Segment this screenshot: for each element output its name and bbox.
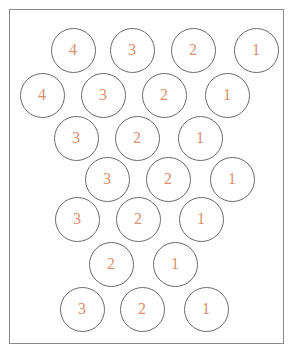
numbered-circle: 2 [89, 242, 134, 287]
numbered-circle: 3 [55, 197, 100, 242]
numbered-circle: 2 [120, 287, 165, 332]
numbered-circle: 3 [85, 157, 130, 202]
numbered-circle: 1 [153, 242, 198, 287]
numbered-circle: 1 [210, 157, 255, 202]
numbered-circle: 1 [184, 287, 229, 332]
numbered-circle: 1 [205, 73, 250, 118]
numbered-circle: 2 [115, 116, 160, 161]
numbered-circle: 1 [234, 28, 279, 73]
numbered-circle: 2 [146, 157, 191, 202]
numbered-circle: 3 [81, 73, 126, 118]
numbered-circle: 2 [171, 28, 216, 73]
numbered-circle: 3 [110, 28, 155, 73]
numbered-circle: 2 [142, 73, 187, 118]
numbered-circle: 4 [20, 73, 65, 118]
numbered-circle: 3 [54, 116, 99, 161]
numbered-circle: 4 [51, 28, 96, 73]
numbered-circle: 1 [179, 197, 224, 242]
numbered-circle: 1 [178, 116, 223, 161]
numbered-circle: 3 [60, 287, 105, 332]
numbered-circle: 2 [116, 197, 161, 242]
